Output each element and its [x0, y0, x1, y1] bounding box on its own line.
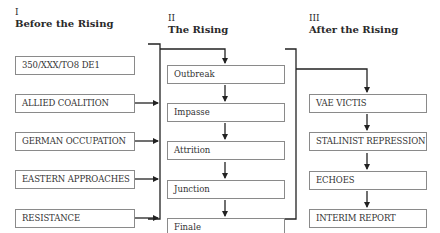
box-before-3: EASTERN APPROACHES	[15, 170, 135, 189]
section-title: After the Rising	[309, 24, 398, 36]
box-after-2: ECHOES	[309, 171, 427, 190]
bracket-after	[285, 49, 296, 219]
box-after-3: INTERIM REPORT	[309, 209, 427, 228]
box-before-4: RESISTANCE	[15, 209, 135, 228]
section-header-after: III After the Rising	[309, 12, 398, 36]
section-title: The Rising	[168, 24, 228, 36]
section-header-rising: II The Rising	[168, 12, 228, 36]
box-before-1: ALLIED COALITION	[15, 94, 135, 113]
section-numeral: III	[309, 12, 398, 24]
bracket-rising	[148, 44, 160, 219]
section-numeral: I	[15, 6, 113, 18]
box-before-2: GERMAN OCCUPATION	[15, 132, 135, 151]
section-header-before: I Before the Rising	[15, 6, 113, 30]
box-rising-1: Impasse	[167, 103, 285, 122]
arrow-into-vae-victis	[296, 69, 367, 92]
section-numeral: II	[168, 12, 228, 24]
box-rising-0: Outbreak	[167, 65, 285, 84]
box-after-1: STALINIST REPRESSION	[309, 132, 427, 151]
box-rising-3: Junction	[167, 180, 285, 199]
box-before-0: 350/XXX/TO8 DE1	[15, 56, 135, 75]
arrow-into-outbreak	[160, 49, 225, 63]
box-rising-4: Finale	[167, 218, 285, 233]
box-after-0: VAE VICTIS	[309, 94, 427, 113]
section-title: Before the Rising	[15, 18, 113, 30]
box-rising-2: Attrition	[167, 141, 285, 160]
